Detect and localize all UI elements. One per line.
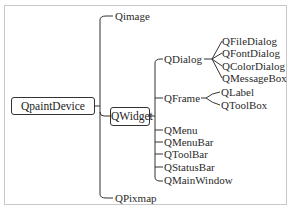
node-qimage: Qimage xyxy=(115,10,150,22)
node-qcolordialog: QColorDialog xyxy=(222,60,285,72)
node-qmessagebox: QMessageBox xyxy=(222,72,287,84)
node-qwidget: QWidget xyxy=(110,107,150,126)
node-qfiledialog: QFileDialog xyxy=(222,35,277,47)
node-qdialog: QDialog xyxy=(164,53,202,65)
node-qframe: QFrame xyxy=(164,92,200,104)
node-qpaintdevice: QpaintDevice xyxy=(11,97,95,115)
node-qfontdialog: QFontDialog xyxy=(222,47,280,59)
node-qpixmap: QPixmap xyxy=(115,192,157,204)
node-qlabel: QLabel xyxy=(221,86,254,98)
node-qmenu: QMenu xyxy=(164,124,198,136)
node-qstatusbar: QStatusBar xyxy=(164,161,215,173)
node-qtoolbar: QToolBar xyxy=(164,148,208,160)
node-qmainwindow: QMainWindow xyxy=(164,174,233,186)
node-qmenubar: QMenuBar xyxy=(164,136,214,148)
node-qtoolbox: QToolBox xyxy=(221,99,267,111)
